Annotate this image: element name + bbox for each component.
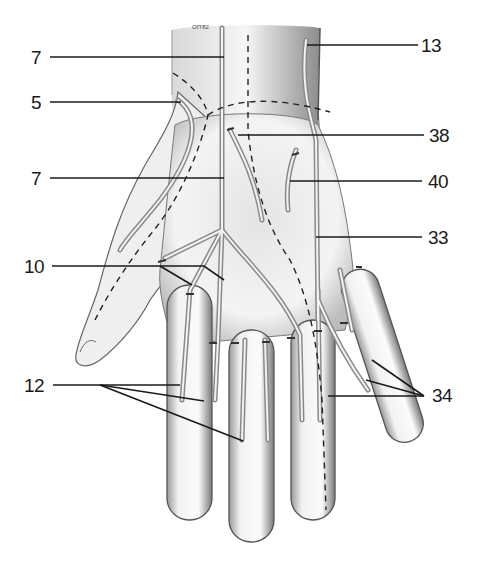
label-7-upper: 7	[31, 48, 41, 67]
hand-anatomy-figure: ОП'82 7 5 7 10 12 13 38 40 33 34	[0, 0, 487, 566]
label-33: 33	[428, 228, 448, 247]
ring-finger	[291, 320, 335, 520]
label-12: 12	[24, 376, 44, 395]
little-finger	[336, 264, 428, 447]
label-34: 34	[432, 386, 452, 405]
artist-signature: ОП'82	[192, 24, 209, 30]
hand-illustration	[0, 0, 487, 566]
label-10: 10	[24, 257, 44, 276]
label-7-lower: 7	[31, 169, 41, 188]
label-5: 5	[31, 93, 41, 112]
label-38: 38	[429, 126, 449, 145]
label-40: 40	[428, 172, 448, 191]
label-13: 13	[421, 36, 441, 55]
